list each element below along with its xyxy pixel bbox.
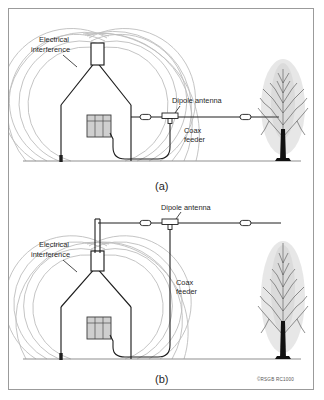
panel-b: Electrical interference Dipole antenna C… [9,201,315,391]
label-coax-a: Coax feeder [184,126,205,144]
svg-text:Electrical: Electrical [39,240,69,249]
label-coax-b: Coax feeder [176,278,197,296]
svg-text:Coax: Coax [176,278,194,287]
window-b [87,317,111,339]
mast-b [95,219,100,253]
panel-a-drawing: Electrical interference Dipole antenna C… [9,9,315,201]
leader-line-interference-b [63,260,77,272]
window-a [87,115,111,137]
dipole-centre-insulator-a [162,113,178,124]
svg-text:Electrical: Electrical [39,35,69,44]
panel-b-drawing: Electrical interference Dipole antenna C… [9,201,315,391]
caption-a: (a) [155,180,168,192]
earth-rod-b [59,353,62,360]
tree-b [258,241,308,359]
tree-a [258,59,308,161]
svg-text:feeder: feeder [176,287,197,296]
svg-text:Dipole antenna: Dipole antenna [161,203,212,212]
label-dipole-a: Dipole antenna [172,96,223,113]
house-a [61,43,131,161]
svg-text:feeder: feeder [184,135,205,144]
copyright-credit: ©RSGB RC1000 [257,376,294,382]
figure-root: Electrical interference Dipole antenna C… [0,0,324,400]
label-interference-a: Electrical interference [31,35,77,67]
figure-frame: Electrical interference Dipole antenna C… [8,8,314,390]
svg-text:interference: interference [31,45,70,54]
svg-text:Dipole antenna: Dipole antenna [172,96,223,105]
svg-text:Coax: Coax [184,126,202,135]
leader-line-interference-a [63,55,77,67]
leader-line-dipole-b [176,212,181,219]
svg-text:interference: interference [31,250,70,259]
earth-rod-a [59,155,62,162]
dipole-centre-insulator-b [162,219,178,230]
panel-a: Electrical interference Dipole antenna C… [9,9,315,201]
caption-b: (b) [155,373,168,385]
label-dipole-b: Dipole antenna [161,203,212,219]
